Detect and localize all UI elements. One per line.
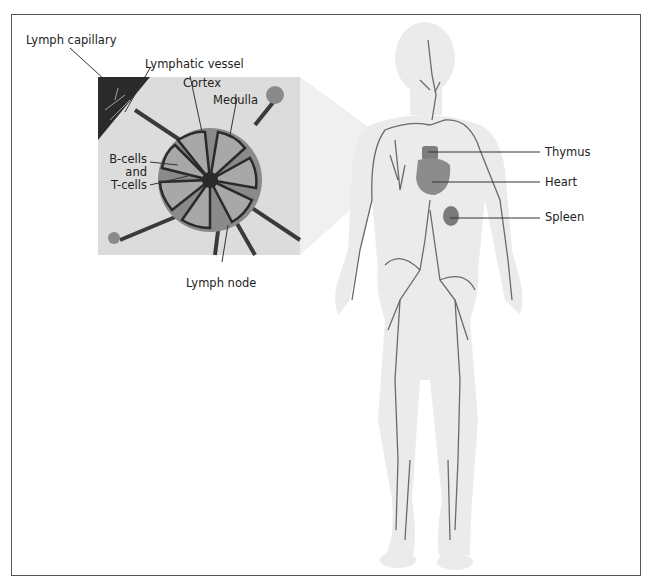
label-thymus: Thymus — [545, 146, 591, 159]
human-body — [335, 22, 523, 570]
label-heart: Heart — [545, 176, 577, 189]
label-lymph-node: Lymph node — [186, 277, 256, 290]
label-lymphatic-vessel: Lymphatic vessel — [145, 58, 244, 71]
spleen-organ — [443, 206, 459, 226]
label-medulla: Medulla — [213, 94, 258, 107]
label-spleen: Spleen — [545, 211, 584, 224]
label-lymph-capillary: Lymph capillary — [26, 34, 116, 47]
label-tcells: T-cells — [105, 179, 147, 192]
label-cortex: Cortex — [183, 77, 221, 90]
lymphatic-system-illustration — [0, 0, 646, 583]
thymus-organ — [422, 146, 438, 160]
